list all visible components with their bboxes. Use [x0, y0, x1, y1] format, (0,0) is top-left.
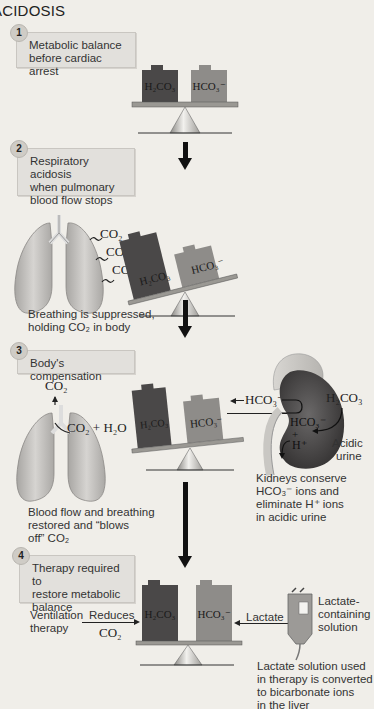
lung-caption-line2: restored and “blows [28, 519, 155, 532]
step-4-caption: Lactate solution used in therapy is conv… [257, 660, 373, 709]
scale-4-graphic [134, 578, 246, 668]
step-4-text-line2: restore metabolic [32, 588, 126, 601]
step-3-kidney-caption: Kidneys conserve HCO₃⁻ ions and eliminat… [256, 472, 347, 524]
solution-line1: Lactate- [318, 595, 370, 608]
kidney-h2co3-input: H₂CO₃ [326, 390, 363, 406]
page-title: ACIDOSIS [0, 2, 65, 19]
kidney-caption-line3: eliminate H⁺ ions [256, 498, 347, 511]
kidney-caption-line2: HCO₃⁻ ions and [256, 485, 347, 498]
kidney-caption-line4: in acidic urine [256, 511, 347, 524]
co2-label-1: CO₂ [100, 226, 123, 242]
balance-scale-4: H₂CO₃ HCO₃⁻ [134, 578, 246, 668]
step-1-number-badge: 1 [10, 24, 28, 42]
step-2-number-badge: 2 [10, 140, 28, 158]
lung-co2-exhaled: CO₂ [45, 378, 68, 394]
step-2-caption-line1: Breathing is suppressed, [28, 308, 155, 321]
ventilation-therapy-label: Ventilation therapy [30, 609, 83, 635]
acidic-urine-line1: Acidic [332, 437, 363, 450]
arrow-step2-to-3 [183, 300, 188, 328]
reduces-co2-label: CO₂ [99, 625, 122, 641]
step-2-text-line2: when pulmonary [30, 181, 126, 194]
scale-4-acid-label: H₂CO₃ [142, 608, 178, 620]
lung-caption-line3: off” CO₂ [28, 532, 155, 545]
lung-co2-h2o-reaction: CO₂ + H₂O [67, 420, 127, 436]
h2co3-input-arrow [308, 406, 348, 436]
step-4-caption-line4: in the liver [257, 699, 373, 709]
step-2-caption-line2: holding CO₂ in body [28, 321, 155, 334]
scale-1-base-label: HCO₃⁻ [191, 80, 227, 93]
step-2-box: Respiratory acidosis when pulmonary bloo… [17, 148, 135, 196]
balance-scale-3: H₂CO₃ HCO₃⁻ [132, 378, 247, 473]
solution-line3: solution [318, 621, 370, 634]
lactate-arrowhead [234, 620, 240, 626]
reduces-label: Reduces [89, 609, 134, 622]
step-3-box: Body's compensation [17, 350, 135, 374]
arrow-step1-to-2 [183, 142, 188, 158]
step-2-text-line3: blood flow stops [30, 194, 126, 207]
solution-line2: containing [318, 608, 370, 621]
lung-caption-line1: Blood flow and breathing [28, 506, 155, 519]
kidney-caption-line1: Kidneys conserve [256, 472, 347, 485]
step-4-caption-line2: in therapy is converted [257, 673, 373, 686]
scale-1-acid-label: H₂CO₃ [142, 80, 178, 92]
step-4-box: Therapy required to restore metabolic ba… [19, 555, 135, 603]
lactate-solution-label: Lactate- containing solution [318, 595, 370, 634]
acidic-urine-line2: urine [332, 450, 363, 463]
hco3-return-arrowhead [230, 398, 236, 404]
scale-4-base-label: HCO₃⁻ [196, 608, 232, 621]
co2-up-arrowhead [52, 396, 58, 402]
ventilation-line2: therapy [30, 622, 83, 635]
step-2-text-line1: Respiratory acidosis [30, 155, 126, 181]
ventilation-line1: Ventilation [30, 609, 83, 622]
lactate-arrow-line [240, 623, 290, 624]
step-3-number-badge: 3 [10, 342, 28, 360]
reduces-arrow-line [82, 622, 134, 623]
h-plus-excretion-arrow [278, 437, 298, 461]
arrow-step3-to-4 [183, 482, 188, 558]
scale-1-graphic [130, 60, 242, 136]
step-2-caption: Breathing is suppressed, holding CO₂ in … [28, 308, 155, 334]
acidic-urine-label: Acidic urine [332, 437, 363, 463]
arrowhead-1 [178, 158, 192, 170]
hco3-return-line [236, 400, 244, 401]
arrowhead-3 [178, 556, 192, 568]
step-4-number-badge: 4 [12, 547, 30, 565]
step-4-caption-line3: to bicarbonate ions [257, 686, 373, 699]
step-1-text-line1: Metabolic balance [29, 39, 127, 52]
balance-scale-1: H₂CO₃ HCO₃⁻ [130, 60, 242, 136]
step-3-lung-caption: Blood flow and breathing restored and “b… [28, 506, 155, 545]
arrowhead-2 [178, 326, 192, 338]
reduces-arrowhead [134, 619, 140, 625]
step-4-caption-line1: Lactate solution used [257, 660, 373, 673]
step-1-text-line2: before cardiac arrest [29, 52, 127, 78]
step-4-text-line1: Therapy required to [32, 562, 126, 588]
iv-bag-icon [286, 588, 316, 660]
step-1-box: Metabolic balance before cardiac arrest [16, 32, 136, 68]
